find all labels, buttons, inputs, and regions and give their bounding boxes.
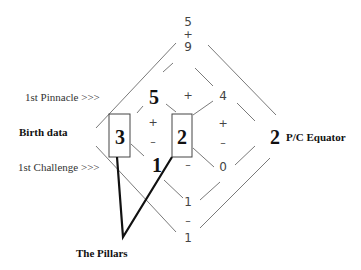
challenge-right-value: 0 — [215, 161, 231, 173]
left-col-plus: + — [146, 117, 160, 128]
outer-lower-right-line — [200, 158, 270, 228]
pinnacle-left-value: 5 — [144, 87, 164, 107]
right-col-plus: + — [216, 118, 230, 129]
top-sum-op: + — [181, 29, 195, 40]
pinnacle-op: + — [181, 90, 195, 101]
birth-box-right-value: 2 — [172, 127, 192, 147]
first-challenge-label: 1st Challenge >>> — [18, 162, 100, 173]
left-col-minus: – — [146, 136, 160, 147]
challenge-left-value: 1 — [147, 155, 167, 175]
birth-box-left-value: 3 — [110, 127, 130, 147]
pinnacle-right-value: 4 — [215, 90, 231, 102]
bottom-op: – — [181, 215, 195, 226]
bottom-a: 1 — [180, 196, 196, 208]
right-col-minus: – — [216, 137, 230, 148]
pc-equator-value: 2 — [265, 127, 285, 147]
challenge-op: – — [181, 159, 195, 170]
outer-upper-right-line — [208, 45, 276, 115]
pc-equator-label: P/C Equator — [286, 132, 346, 143]
top-sum-a: 5 — [180, 16, 196, 28]
first-pinnacle-label: 1st Pinnacle >>> — [25, 92, 100, 103]
pillars-label: The Pillars — [76, 248, 128, 259]
bottom-b: 1 — [180, 232, 196, 244]
top-sum-b: 9 — [180, 41, 196, 53]
outer-upper-left-line — [96, 43, 176, 128]
birth-data-label: Birth data — [19, 127, 68, 138]
